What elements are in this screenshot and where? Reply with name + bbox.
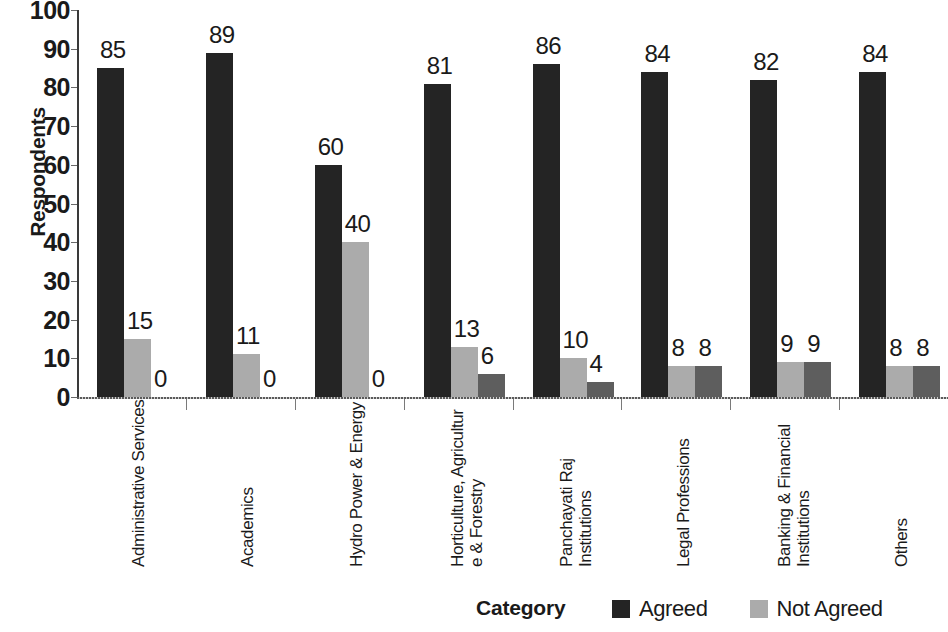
bar-value-label: 15 [127, 309, 153, 333]
y-axis-tick-label: 100 [6, 0, 70, 23]
bar-value-label: 84 [862, 42, 888, 66]
legend-entry: Agreed [612, 596, 708, 622]
x-axis-category-label: Horticulture, Agricultur e & Forestry [448, 409, 486, 567]
bar-value-label: 86 [536, 34, 562, 58]
y-axis-tick-label: 60 [6, 152, 70, 177]
legend-label: Agreed [639, 596, 708, 622]
y-axis-tick-label: 40 [6, 230, 70, 255]
x-axis-title: Category [476, 596, 565, 620]
bar-value-label: 0 [154, 367, 167, 391]
bar [886, 366, 913, 397]
bar-value-label: 84 [644, 42, 670, 66]
bar [587, 382, 614, 397]
x-axis-tick-mark [839, 399, 840, 410]
bar-value-label: 81 [427, 54, 453, 78]
x-axis-category-label: Panchayati Raj Institutions [557, 458, 595, 567]
x-axis-tick-mark [404, 399, 405, 410]
bar [124, 339, 151, 397]
bar-value-label: 6 [481, 344, 494, 368]
bar-value-label: 40 [345, 212, 371, 236]
bar-value-label: 85 [100, 38, 126, 62]
bar-value-label: 13 [454, 317, 480, 341]
y-axis-tick-label: 30 [6, 268, 70, 293]
y-axis-tick-label: 20 [6, 307, 70, 332]
x-axis-category-label: Banking & Financial Institutions [775, 424, 813, 567]
bar [641, 72, 668, 397]
y-axis-tick-label: 90 [6, 36, 70, 61]
bar-value-label: 8 [916, 336, 929, 360]
bar-value-label: 82 [753, 50, 779, 74]
bar [859, 72, 886, 397]
bar [695, 366, 722, 397]
chart-legend: AgreedNot Agreed [612, 596, 883, 622]
y-axis-tick-label: 70 [6, 114, 70, 139]
bar [777, 362, 804, 397]
bar-value-label: 60 [318, 135, 344, 159]
y-axis-tick-label: 10 [6, 346, 70, 371]
bar [206, 53, 233, 397]
bar [424, 84, 451, 397]
bar [533, 64, 560, 397]
legend-label: Not Agreed [777, 596, 883, 622]
bar-value-label: 0 [372, 367, 385, 391]
bar [97, 68, 124, 397]
bar [315, 165, 342, 397]
legend-entry: Not Agreed [750, 596, 883, 622]
bar-value-label: 8 [698, 336, 711, 360]
bar-value-label: 89 [209, 23, 235, 47]
bar-value-label: 4 [590, 352, 603, 376]
bar [913, 366, 940, 397]
bar [668, 366, 695, 397]
x-axis-tick-mark [513, 399, 514, 410]
bar [342, 242, 369, 397]
bar-value-label: 8 [889, 336, 902, 360]
bar-value-label: 8 [671, 336, 684, 360]
x-axis-category-label: Legal Professions [674, 439, 693, 567]
bar-value-label: 10 [563, 328, 589, 352]
bar [560, 358, 587, 397]
bar [451, 347, 478, 397]
plot-area: 8515089110604008113686104848882998488 [77, 10, 948, 397]
x-axis-category-label: Hydro Power & Energy [347, 402, 366, 567]
x-axis-category-label: Administrative Services [129, 400, 148, 567]
y-axis-tick-label: 80 [6, 75, 70, 100]
bar-value-label: 11 [236, 324, 260, 348]
bar [233, 354, 260, 397]
x-axis-category-label: Academics [238, 487, 257, 567]
y-axis-tick-label: 50 [6, 191, 70, 216]
bar [478, 374, 505, 397]
x-axis-category-label: Others [892, 518, 911, 567]
bar-value-label: 0 [263, 367, 276, 391]
bar-value-label: 9 [780, 332, 793, 356]
y-axis-tick-label: 0 [6, 385, 70, 410]
y-axis-tick-labels: 1009080706050403020100 [0, 0, 70, 632]
x-axis-tick-mark [295, 399, 296, 410]
bar [804, 362, 831, 397]
bar-value-label: 9 [807, 332, 820, 356]
x-axis-tick-mark [621, 399, 622, 410]
legend-swatch-icon [612, 600, 630, 618]
bar [750, 80, 777, 397]
x-axis-tick-mark [730, 399, 731, 410]
legend-swatch-icon [750, 600, 768, 618]
x-axis-tick-mark [186, 399, 187, 410]
bar-chart: Respondents 1009080706050403020100 85150… [0, 0, 948, 632]
